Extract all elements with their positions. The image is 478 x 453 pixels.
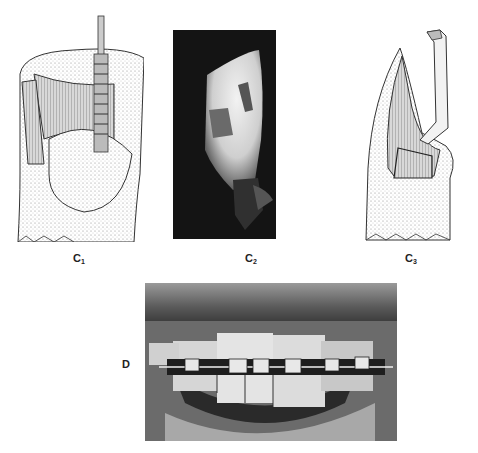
label-subscript: 1 [81, 258, 85, 265]
tooth-instrument-illustration [362, 28, 462, 242]
orthodontic-brackets-photo [145, 283, 397, 441]
label-subscript: 2 [253, 258, 257, 265]
panel-label-c2: C2 [245, 252, 257, 265]
panel-label-d: D [122, 358, 130, 370]
panel-c1-illustration [14, 14, 144, 242]
label-subscript: 3 [413, 258, 417, 265]
tooth-bur-illustration [14, 14, 144, 242]
tooth-photo [173, 30, 276, 239]
panel-label-c1: C1 [73, 252, 85, 265]
panel-c3-illustration [362, 28, 462, 242]
panel-d-photograph [145, 283, 397, 441]
panel-label-c3: C3 [405, 252, 417, 265]
panel-c2-photograph [173, 30, 276, 239]
label-letter: C [405, 252, 413, 264]
label-letter: D [122, 358, 130, 370]
label-letter: C [245, 252, 253, 264]
label-letter: C [73, 252, 81, 264]
